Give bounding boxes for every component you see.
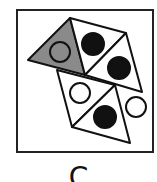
outline-circle-icon: [50, 42, 70, 62]
puzzle-figure: [0, 0, 157, 182]
filled-circle-icon: [82, 33, 104, 55]
outline-circle-icon: [70, 83, 90, 103]
option-label: C: [0, 164, 157, 182]
filled-circle-icon: [94, 106, 116, 128]
outline-circle-icon: [126, 97, 146, 117]
filled-circle-icon: [108, 57, 130, 79]
